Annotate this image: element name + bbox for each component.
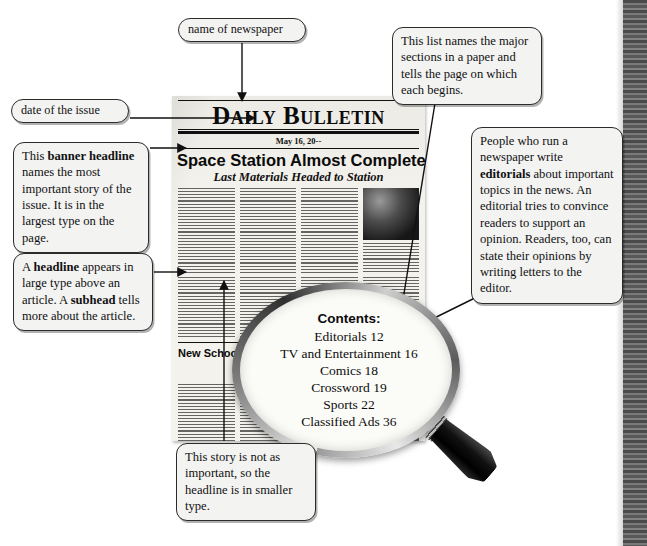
callout-sections-list: This list names the major sections in a …: [392, 27, 542, 105]
contents-item-classified: Classified Ads 36: [246, 413, 452, 430]
contents-item-sports: Sports 22: [246, 396, 452, 413]
callout-headline-text-1: A: [22, 260, 34, 274]
callout-headline: A headline appears in large type above a…: [13, 253, 153, 331]
contents-item-editorials: Editorials 12: [246, 328, 452, 345]
callout-sections-text: This list names the major sections in a …: [401, 34, 528, 97]
callout-editorial-text-1: People who run a newspaper write: [480, 134, 568, 164]
contents-item-crossword: Crossword 19: [246, 379, 452, 396]
callout-editorials: People who run a newspaper write editori…: [471, 127, 623, 304]
callout-newspaper-name-text: name of newspaper: [188, 22, 283, 36]
contents-title: Contents:: [246, 310, 452, 327]
callout-editorial-text-2: about important topics in the news. An e…: [480, 167, 614, 296]
callout-smaller-type-text: This story is not as important, so the h…: [185, 450, 292, 513]
contents-item-tv: TV and Entertainment 16: [246, 345, 452, 362]
callout-banner-term: banner headline: [48, 149, 135, 163]
callout-headline-term-2: subhead: [71, 293, 116, 307]
magnifier-lens: Contents: Editorials 12 TV and Entertain…: [240, 289, 452, 451]
callout-headline-term-1: headline: [34, 260, 80, 274]
diagram-page: Daily Bulletin May 16, 20-- Space Statio…: [0, 0, 647, 546]
contents-item-comics: Comics 18: [246, 362, 452, 379]
contents-list: Contents: Editorials 12 TV and Entertain…: [240, 310, 452, 430]
callout-banner-text-1: This: [22, 149, 48, 163]
callout-date-text: date of the issue: [21, 103, 100, 117]
callout-smaller-type: This story is not as important, so the h…: [176, 443, 316, 521]
callout-editorial-term: editorials: [480, 167, 530, 181]
callout-banner-headline: This banner headline names the most impo…: [13, 142, 149, 253]
callout-date: date of the issue: [11, 99, 129, 123]
callout-newspaper-name: name of newspaper: [178, 18, 306, 42]
magnifier-rim: Contents: Editorials 12 TV and Entertain…: [232, 282, 460, 458]
callout-banner-text-2: names the most important story of the is…: [22, 165, 131, 244]
